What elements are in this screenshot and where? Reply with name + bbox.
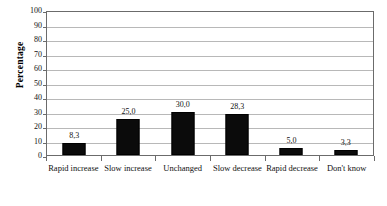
y-axis-tick-mark [43, 70, 47, 71]
y-axis-tick-label: 80 [16, 36, 42, 44]
y-axis-tick-labels: 1009080706050403020100 [16, 11, 42, 156]
y-axis-tick-label: 100 [16, 7, 42, 15]
x-axis-tick-mark [210, 156, 211, 161]
y-axis-tick-mark [43, 41, 47, 42]
bar [63, 143, 86, 155]
y-axis-tick-label: 10 [16, 138, 42, 146]
x-axis-tick-mark [46, 156, 47, 161]
x-axis-category-label: Unchanged [155, 163, 210, 203]
bar-column: 5,0 [264, 12, 318, 155]
y-axis-tick-mark [43, 99, 47, 100]
y-axis-tick-label: 70 [16, 51, 42, 59]
bar-value-label: 25,0 [121, 108, 135, 116]
y-axis-tick-label: 40 [16, 94, 42, 102]
y-axis-tick-mark [43, 12, 47, 13]
y-axis-tick-mark [43, 128, 47, 129]
x-axis-tick-mark [374, 156, 375, 161]
y-axis-tick-mark [43, 143, 47, 144]
bar-value-label: 5,0 [286, 137, 296, 145]
y-axis-tick-label: 50 [16, 80, 42, 88]
bar-column: 25,0 [101, 12, 155, 155]
bar-column: 30,0 [156, 12, 210, 155]
x-axis-category-label: Slow increase [101, 163, 156, 203]
x-axis-category-label: Don't know [319, 163, 374, 203]
y-axis-tick-mark [43, 85, 47, 86]
x-axis-tick-mark [101, 156, 102, 161]
x-axis-category-label: Rapid decrease [265, 163, 320, 203]
bar [171, 112, 194, 156]
bar-value-label: 30,0 [176, 101, 190, 109]
bar-value-label: 28,3 [230, 103, 244, 111]
x-axis-tick-mark [155, 156, 156, 161]
bar [280, 148, 303, 155]
bar-column: 3,3 [319, 12, 373, 155]
bar-chart: Percentage 1009080706050403020100 8,325,… [0, 0, 387, 206]
plot-area: 8,325,030,028,35,03,3 [46, 11, 374, 156]
bar-column: 8,3 [47, 12, 101, 155]
y-axis-tick-label: 30 [16, 109, 42, 117]
x-axis-category-labels: Rapid increaseSlow increaseUnchangedSlow… [46, 163, 374, 203]
x-axis-tick-mark [319, 156, 320, 161]
bar [117, 119, 140, 155]
y-axis-tick-label: 0 [16, 152, 42, 160]
bar [226, 114, 249, 155]
bar-value-label: 8,3 [69, 132, 79, 140]
y-axis-tick-mark [43, 27, 47, 28]
y-axis-tick-label: 90 [16, 22, 42, 30]
x-axis-tick-marks [46, 156, 374, 161]
x-axis-tick-mark [265, 156, 266, 161]
bar-value-label: 3,3 [341, 139, 351, 147]
x-axis-category-label: Slow decrease [210, 163, 265, 203]
y-axis-tick-mark [43, 114, 47, 115]
y-axis-tick-label: 60 [16, 65, 42, 73]
bar [334, 150, 357, 155]
x-axis-category-label: Rapid increase [46, 163, 101, 203]
bar-columns: 8,325,030,028,35,03,3 [47, 12, 373, 155]
y-axis-tick-label: 20 [16, 123, 42, 131]
bar-column: 28,3 [210, 12, 264, 155]
y-axis-tick-mark [43, 56, 47, 57]
